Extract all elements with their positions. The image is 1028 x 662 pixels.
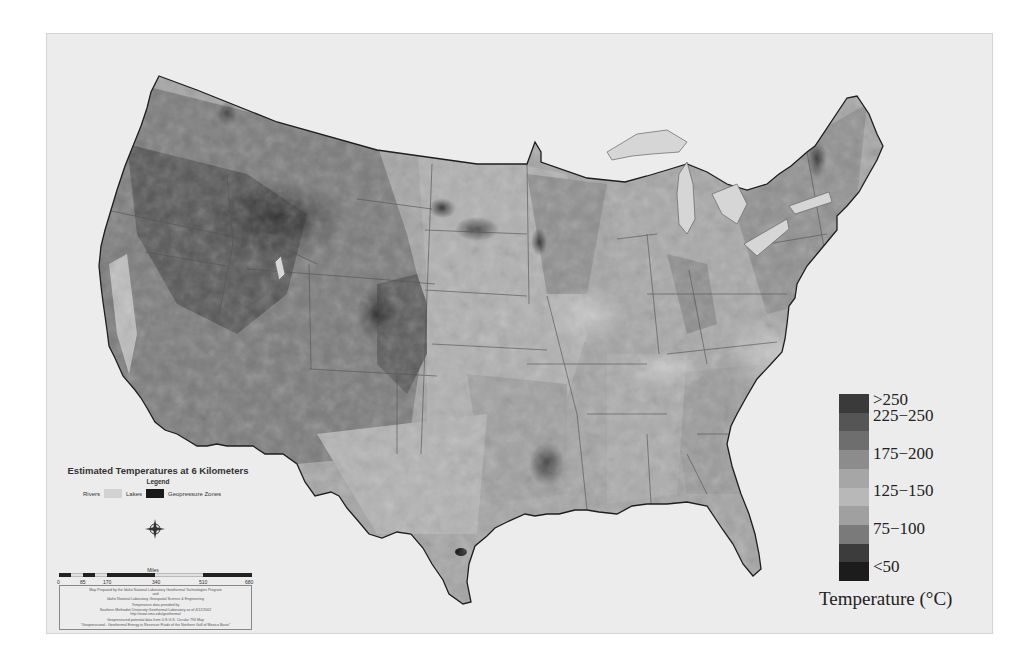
legend-heading: Legend <box>65 478 251 485</box>
temperature-color-bar <box>839 394 869 581</box>
temperature-legend-title: Temperature (°C) <box>819 588 952 610</box>
legend-keys: Rivers Lakes Geopressure Zones <box>83 489 221 498</box>
map-frame: Estimated Temperatures at 6 Kilometers L… <box>46 33 993 634</box>
lake-superior <box>607 130 687 160</box>
lakes-swatch <box>104 489 122 498</box>
credit-line: "Geopressured - Geothermal Energy in Res… <box>60 623 251 627</box>
temp-label: <50 <box>873 558 900 575</box>
temp-label: 175−200 <box>873 445 934 462</box>
temp-label: 75−100 <box>873 520 925 537</box>
scale-bar <box>59 573 252 577</box>
geopressure-label: Geopressure Zones <box>168 491 221 497</box>
credits-box: Map Prepared by the Idaho National Labor… <box>59 585 252 630</box>
lakes-label: Lakes <box>126 491 142 497</box>
temp-label: 225−250 <box>873 407 934 424</box>
map-title: Estimated Temperatures at 6 Kilometers <box>65 465 251 476</box>
geopressure-swatch <box>146 489 164 498</box>
rivers-label: Rivers <box>83 491 100 497</box>
temp-label: 125−150 <box>873 482 934 499</box>
compass-rose-icon <box>145 514 165 544</box>
